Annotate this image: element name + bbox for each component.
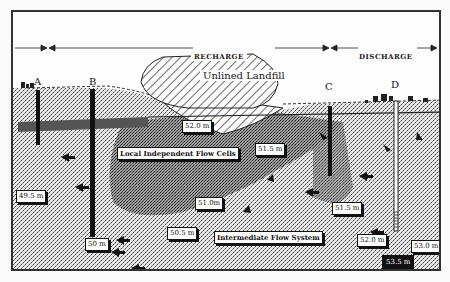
well-c: [328, 106, 332, 176]
head-label-highlighted: 53.5 m: [382, 255, 414, 270]
well-d: [394, 101, 398, 231]
head-label: 52.0 m: [182, 120, 212, 133]
intermediate-flow-label: Intermediate Flow System: [214, 231, 323, 244]
well-c-label: C: [325, 81, 333, 92]
well-b: [90, 89, 95, 237]
landfill: [141, 54, 278, 108]
well-d-label: D: [391, 79, 399, 90]
local-flow-cells-label: Local Independent Flow Cells: [117, 147, 239, 160]
head-label: 51.5 m: [255, 143, 285, 156]
head-label: 51.5 m: [332, 202, 362, 215]
well-a: [36, 90, 40, 145]
discharge-label: DISCHARGE: [356, 53, 416, 61]
recharge-arrow: [15, 45, 437, 51]
head-label: 51.0m: [195, 197, 223, 210]
head-label: 50 m: [85, 238, 109, 251]
well-a-label: A: [34, 76, 41, 87]
head-label: 50.5 m: [167, 227, 197, 240]
head-label: 53.0 m: [411, 240, 441, 253]
head-label: 52.0 m: [357, 234, 387, 247]
recharge-label: RECHARGE: [191, 53, 247, 61]
well-b-label: B: [89, 76, 96, 87]
head-label: 49.5 m: [16, 190, 46, 203]
diagram-frame: RECHARGE DISCHARGE Unlined Landfill A B …: [11, 10, 441, 271]
landfill-label: Unlined Landfill: [200, 70, 288, 81]
vegetation-left: [21, 82, 34, 88]
